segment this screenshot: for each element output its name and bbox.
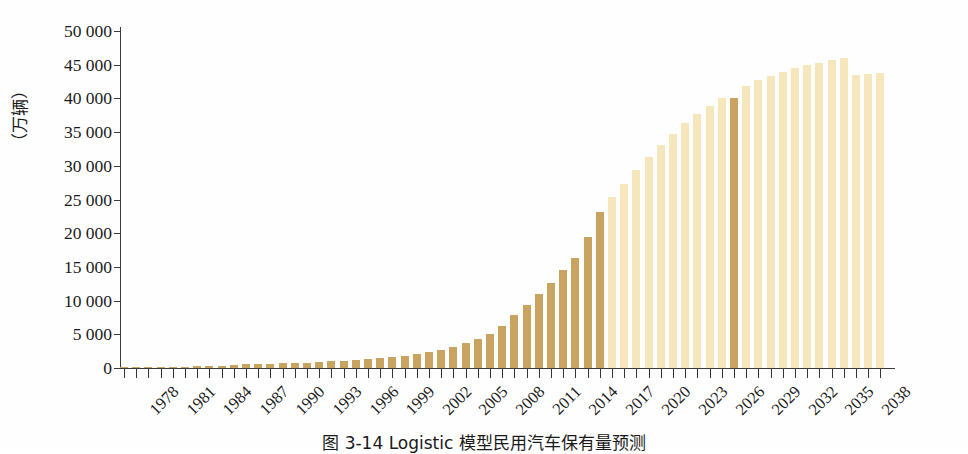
x-axis-tick-mark bbox=[380, 369, 381, 378]
x-axis-tick-mark bbox=[783, 369, 784, 378]
x-axis-tick-label: 1978 bbox=[146, 382, 183, 419]
bar-1989 bbox=[254, 364, 262, 368]
x-axis-tick-label: 1999 bbox=[402, 382, 439, 419]
bar-1986 bbox=[218, 366, 226, 368]
bar-2013 bbox=[547, 283, 555, 368]
bar-2005 bbox=[449, 347, 457, 368]
bar-2006 bbox=[462, 343, 470, 368]
x-axis-tick-label: 1987 bbox=[255, 382, 292, 419]
x-axis-tick-label: 2017 bbox=[621, 382, 658, 419]
x-axis-tick-mark bbox=[856, 369, 857, 378]
x-axis-tick-label: 2035 bbox=[841, 382, 878, 419]
x-axis-tick-mark bbox=[795, 369, 796, 378]
bar-2016 bbox=[584, 237, 592, 368]
bar-2033 bbox=[791, 68, 799, 368]
bar-2003 bbox=[425, 352, 433, 368]
x-axis-tick-mark bbox=[563, 369, 564, 378]
x-axis-tick-mark bbox=[819, 369, 820, 378]
x-axis-tick-mark bbox=[270, 369, 271, 378]
bar-2026 bbox=[706, 106, 714, 368]
x-axis-tick-mark bbox=[588, 369, 589, 378]
bar-1991 bbox=[279, 363, 287, 368]
x-axis-tick-mark bbox=[148, 369, 149, 378]
bar-2025 bbox=[693, 114, 701, 368]
x-axis-tick-mark bbox=[392, 369, 393, 378]
bar-2032 bbox=[779, 72, 787, 368]
x-axis-tick-mark bbox=[453, 369, 454, 378]
bar-2007 bbox=[474, 339, 482, 368]
bar-1994 bbox=[315, 362, 323, 368]
x-axis-tick-mark bbox=[636, 369, 637, 378]
x-axis-tick-label: 2002 bbox=[438, 382, 475, 419]
bar-2028 bbox=[730, 98, 738, 368]
bar-1996 bbox=[340, 361, 348, 368]
x-axis-tick-mark bbox=[514, 369, 515, 378]
bar-1999 bbox=[376, 358, 384, 368]
bar-2018 bbox=[608, 197, 616, 368]
bar-1997 bbox=[352, 360, 360, 368]
x-axis-tick-mark bbox=[295, 369, 296, 378]
x-axis-tick-label: 2011 bbox=[548, 382, 585, 419]
x-axis-tick-mark bbox=[368, 369, 369, 378]
x-axis-tick-mark bbox=[612, 369, 613, 378]
x-axis-tick-mark bbox=[246, 369, 247, 378]
x-axis-tick-mark bbox=[527, 369, 528, 378]
x-axis-tick-mark bbox=[685, 369, 686, 378]
y-axis-tick-label: 10 000 bbox=[4, 290, 112, 311]
bar-1984 bbox=[193, 366, 201, 368]
y-axis-tick-label: 45 000 bbox=[4, 54, 112, 75]
bar-2017 bbox=[596, 212, 604, 368]
x-axis-tick-mark bbox=[734, 369, 735, 378]
x-axis-tick-mark bbox=[868, 369, 869, 378]
x-axis-tick-label: 2026 bbox=[731, 382, 768, 419]
x-axis-tick-label: 2032 bbox=[804, 382, 841, 419]
bar-2040 bbox=[876, 73, 884, 368]
x-axis-tick-mark bbox=[832, 369, 833, 378]
x-axis-tick-mark bbox=[429, 369, 430, 378]
bar-1992 bbox=[291, 363, 299, 368]
bar-2010 bbox=[510, 315, 518, 368]
x-axis-tick-label: 2023 bbox=[695, 382, 732, 419]
x-axis-tick-mark bbox=[331, 369, 332, 378]
bar-2029 bbox=[742, 86, 750, 368]
y-axis-tick-label: 0 bbox=[4, 358, 112, 379]
x-axis-tick-mark bbox=[490, 369, 491, 378]
x-axis-tick-label: 2005 bbox=[475, 382, 512, 419]
bar-2036 bbox=[828, 60, 836, 368]
x-axis-tick-mark bbox=[209, 369, 210, 378]
x-axis-tick-label: 2014 bbox=[585, 382, 622, 419]
x-axis-tick-mark bbox=[758, 369, 759, 378]
bar-2019 bbox=[620, 184, 628, 368]
bar-2004 bbox=[437, 350, 445, 368]
x-axis-tick-mark bbox=[844, 369, 845, 378]
bar-2027 bbox=[718, 98, 726, 368]
x-axis-tick-mark bbox=[551, 369, 552, 378]
x-axis-tick-mark bbox=[673, 369, 674, 378]
x-axis-tick-label: 1996 bbox=[365, 382, 402, 419]
bar-1978 bbox=[120, 367, 128, 369]
bar-2011 bbox=[523, 305, 531, 368]
bar-2031 bbox=[767, 76, 775, 368]
figure-caption: 图 3-14 Logistic 模型民用汽车保有量预测 bbox=[0, 429, 968, 454]
bar-2039 bbox=[864, 74, 872, 368]
x-axis-tick-mark bbox=[502, 369, 503, 378]
bar-1981 bbox=[157, 367, 165, 369]
bar-2002 bbox=[413, 354, 421, 368]
x-axis-tick-label: 2008 bbox=[512, 382, 549, 419]
bar-1979 bbox=[132, 367, 140, 369]
x-axis-tick-label: 1984 bbox=[219, 382, 256, 419]
x-axis-tick-mark bbox=[624, 369, 625, 378]
x-axis-tick-mark bbox=[161, 369, 162, 378]
y-axis-line bbox=[120, 27, 121, 369]
x-axis-tick-mark bbox=[441, 369, 442, 378]
y-axis-tick-label: 50 000 bbox=[4, 21, 112, 42]
x-axis-tick-mark bbox=[173, 369, 174, 378]
bar-1998 bbox=[364, 359, 372, 368]
x-axis-tick-mark bbox=[575, 369, 576, 378]
x-axis-tick-mark bbox=[649, 369, 650, 378]
x-axis-tick-mark bbox=[710, 369, 711, 378]
x-axis-tick-mark bbox=[344, 369, 345, 378]
bar-1980 bbox=[144, 367, 152, 369]
x-axis-tick-mark bbox=[466, 369, 467, 378]
x-axis-tick-label: 1990 bbox=[292, 382, 329, 419]
